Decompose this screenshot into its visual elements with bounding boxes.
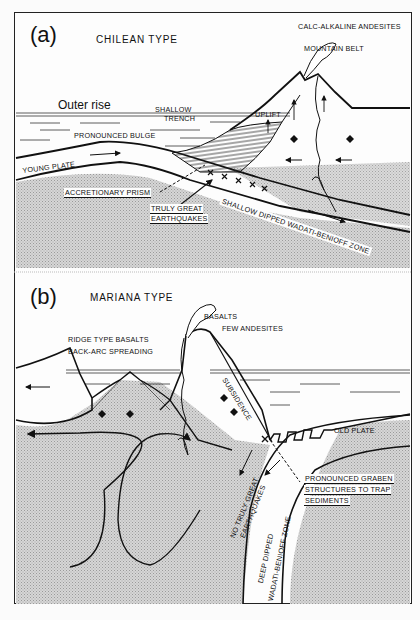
truly-great-label-line2: EARTHQUAKES xyxy=(150,214,208,224)
trench-label: TRENCH xyxy=(164,114,195,123)
diagram-artwork xyxy=(0,0,420,620)
shallow-label: SHALLOW xyxy=(155,105,192,114)
panel-a-title: CHILEAN TYPE xyxy=(96,34,178,45)
few-andesites-label: FEW ANDESITES xyxy=(222,324,283,333)
uplift-label: UPLIFT xyxy=(255,110,281,119)
graben-label-line3: SEDIMENTS xyxy=(304,496,350,506)
panel-b-letter: (b) xyxy=(30,284,57,310)
calc-alkaline-label: CALC-ALKALINE ANDESITES xyxy=(298,22,401,31)
panel-a-letter: (a) xyxy=(30,22,57,48)
ridge-basalts-label: RIDGE TYPE BASALTS xyxy=(68,335,149,344)
graben-label-line2: STRUCTURES TO TRAP xyxy=(304,485,391,495)
truly-great-label-line1: TRULY GREAT xyxy=(150,204,203,214)
outer-rise-label: Outer rise xyxy=(58,98,111,112)
back-arc-spreading-label: BACK-ARC SPREADING xyxy=(68,347,153,356)
graben-label-line1: PRONOUNCED GRABEN xyxy=(304,474,394,484)
panel-a-artwork xyxy=(16,43,410,268)
accretionary-prism-label: ACCRETIONARY PRISM xyxy=(64,188,151,198)
basalts-label: BASALTS xyxy=(204,312,237,321)
panel-b-title: MARIANA TYPE xyxy=(90,292,173,303)
old-plate-label: OLD PLATE xyxy=(334,426,375,435)
mountain-belt-label: MOUNTAIN BELT xyxy=(304,44,364,53)
pronounced-bulge-label: PRONOUNCED BULGE xyxy=(74,131,155,140)
